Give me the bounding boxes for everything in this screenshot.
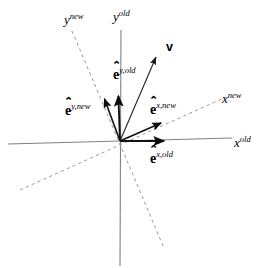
basis-arrow-e-y-old [118, 96, 120, 141]
axis-label-y-new: ynew [64, 13, 83, 26]
basis-label-e-x-old: ⌃ex,old [150, 152, 173, 166]
hat-accent-icon: ⌃ [64, 96, 73, 107]
basis-arrow-e-y-new [105, 99, 121, 141]
hat-accent-icon: ⌃ [149, 95, 158, 106]
coordinate-transform-diagram: ynew yold xnew xold ⌃ey,new ⌃ey,old ⌃ex,… [0, 0, 262, 268]
basis-label-e-x-new: ⌃ex,new [150, 103, 176, 117]
basis-label-e-y-old: ⌃ey,old [113, 68, 136, 82]
hat-accent-icon: ⌃ [112, 60, 121, 71]
basis-label-e-y-new: ⌃ey,new [65, 104, 90, 118]
diagram-canvas [0, 0, 262, 268]
axis-label-x-old: xold [234, 136, 251, 149]
vector-label-v: v [166, 41, 173, 54]
hat-accent-icon: ⌃ [149, 144, 158, 155]
axis-label-y-old: yold [113, 10, 130, 23]
axis-label-x-new: xnew [222, 92, 241, 105]
axis-line-x-new [20, 97, 226, 190]
